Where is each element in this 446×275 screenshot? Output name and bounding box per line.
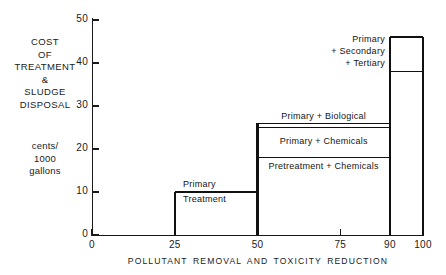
step-top-primary-biological [258, 123, 390, 124]
x-tick-label-25: 25 [158, 239, 192, 250]
y-tick-label-20: 20 [58, 142, 88, 153]
y-tick-label-40: 40 [58, 56, 88, 67]
x-tick-label-90: 90 [373, 239, 407, 250]
tertiary-label-line-2: + Secondary [280, 45, 385, 57]
step-label-primary-chemicals: Primary + Chemicals [258, 136, 390, 146]
y-tick-label-30: 30 [58, 99, 88, 110]
y-tick-30 [93, 105, 99, 106]
x-tick-75 [340, 229, 341, 236]
y-tick-50 [93, 19, 99, 20]
step-edge-tall-right [422, 37, 424, 235]
y-axis-label-line-1: COST [4, 36, 86, 49]
step-label-treatment: Treatment [183, 194, 226, 204]
cost-vs-pollutant-removal-chart: COST OF TREATMENT & SLUDGE DISPOSAL cent… [0, 0, 446, 275]
x-tick-label-75: 75 [323, 239, 357, 250]
y-axis-units-line-3: gallons [4, 165, 86, 178]
step-label-primary-secondary-tertiary: Primary + Secondary + Tertiary [280, 33, 385, 69]
step-divider-primary-chemicals [258, 127, 390, 128]
step-label-pretreatment-chemicals: Pretreatment + Chemicals [258, 161, 390, 171]
step-divider-tertiary [390, 71, 423, 72]
step-edge-primary-left [174, 192, 176, 235]
x-tick-label-50: 50 [241, 239, 275, 250]
y-axis-units-line-2: 1000 [4, 153, 86, 166]
y-tick-20 [93, 148, 99, 149]
y-tick-label-0: 0 [58, 228, 88, 239]
y-tick-label-50: 50 [58, 13, 88, 24]
step-top-tertiary [390, 36, 423, 38]
y-axis-label-line-5: SLUDGE [4, 86, 86, 99]
y-tick-10 [93, 191, 99, 192]
y-axis-line [92, 18, 93, 236]
x-tick-0 [91, 229, 92, 236]
tertiary-label-line-1: Primary [280, 33, 385, 45]
y-tick-0 [93, 234, 99, 235]
tertiary-label-line-3: + Tertiary [280, 57, 385, 69]
y-tick-40 [93, 62, 99, 63]
step-label-primary-biological: Primary + Biological [258, 111, 390, 121]
x-tick-label-0: 0 [75, 239, 109, 250]
step-top-primary [175, 191, 258, 193]
x-axis-label: POLLUTANT REMOVAL AND TOXICITY REDUCTION [92, 256, 424, 266]
step-divider-pretreatment-chemicals [258, 157, 390, 158]
step-label-primary: Primary [183, 179, 216, 189]
y-tick-label-10: 10 [58, 185, 88, 196]
x-tick-label-100: 100 [406, 239, 440, 250]
y-axis-label-line-4: & [4, 74, 86, 87]
